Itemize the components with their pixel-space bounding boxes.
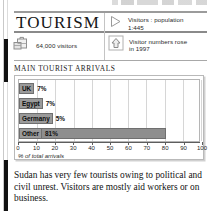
section-heading: MAIN TOURIST ARRIVALS [14, 64, 115, 73]
x-tick-label-30: 30 [70, 145, 77, 151]
bar-row: Egypt7% [19, 98, 201, 109]
bar-category-name: Egypt [19, 98, 43, 109]
bar-row: Germany5% [19, 113, 201, 124]
fact-visitors-text: 64,000 visitors [36, 42, 77, 49]
x-tick-label-80: 80 [162, 145, 169, 151]
header-column-divider [104, 13, 105, 60]
x-axis-label: % of total arrivals [18, 153, 64, 159]
fact-visitors-line1: 64,000 visitors [36, 42, 77, 49]
x-tick-label-10: 10 [33, 145, 40, 151]
page-title: TOURISM [16, 13, 100, 32]
body-paragraph: Sudan has very few tourists owing to pol… [14, 170, 204, 205]
page-edge-mark-upper [4, 39, 8, 82]
bar-category-name: UK [19, 83, 34, 94]
up-arrow-icon [108, 35, 124, 55]
x-tick-label-90: 90 [180, 145, 187, 151]
fact-visitor-population-ratio: Visitors : population 1:445 [108, 14, 206, 33]
x-tick-label-50: 50 [107, 145, 114, 151]
play-triangle-icon [108, 14, 123, 33]
fact-ratio-line1: Visitors : population [128, 16, 184, 23]
bar-value-label: 7% [34, 85, 46, 92]
chart-plot-area: UK7%Egypt7%Germany5%Other81% [18, 79, 200, 142]
bar-category-name: Germany [19, 113, 53, 124]
x-tick-label-60: 60 [125, 145, 132, 151]
fact-ratio-text: Visitors : population 1:445 [128, 16, 184, 31]
x-axis-line [18, 142, 200, 143]
fact-trend-line1: Visitor numbers rose [129, 38, 187, 45]
bar-label-germany: Germany5% [19, 113, 65, 124]
bar-category-name: Other [19, 128, 42, 139]
gridline-100 [201, 80, 202, 141]
bar-label-other: Other81% [19, 128, 58, 139]
cropped-text-remnant [112, 0, 207, 5]
fact-ratio-line2: 1:445 [128, 24, 144, 31]
bar-row: UK7% [19, 83, 201, 94]
page-edge-mark-lower [4, 160, 8, 211]
fact-trend-text: Visitor numbers rose in 1997 [129, 38, 187, 53]
tourist-arrivals-chart: UK7%Egypt7%Germany5%Other81% 01020304050… [14, 75, 204, 160]
x-tick-label-20: 20 [51, 145, 58, 151]
x-tick-label-0: 0 [16, 145, 19, 151]
x-tick-label-40: 40 [88, 145, 95, 151]
fact-visitor-trend: Visitor numbers rose in 1997 [108, 35, 206, 55]
chart-bars: UK7%Egypt7%Germany5%Other81% [19, 80, 199, 141]
bar-row: Other81% [19, 128, 201, 139]
suitcase-icon [12, 35, 31, 57]
x-tick-label-70: 70 [143, 145, 150, 151]
bar-label-egypt: Egypt7% [19, 98, 55, 109]
bar-value-label: 7% [43, 100, 55, 107]
bar-label-uk: UK7% [19, 83, 46, 94]
header-rule-bottom [14, 60, 207, 61]
x-tick-label-100: 100 [197, 145, 207, 151]
bar-value-label: 5% [53, 115, 65, 122]
chart-x-axis: 0102030405060708090100 % of total arriva… [18, 142, 200, 161]
bar-value-label: 81% [42, 130, 58, 137]
fact-annual-visitors: 64,000 visitors [12, 35, 104, 57]
fact-trend-line2: in 1997 [129, 45, 150, 52]
